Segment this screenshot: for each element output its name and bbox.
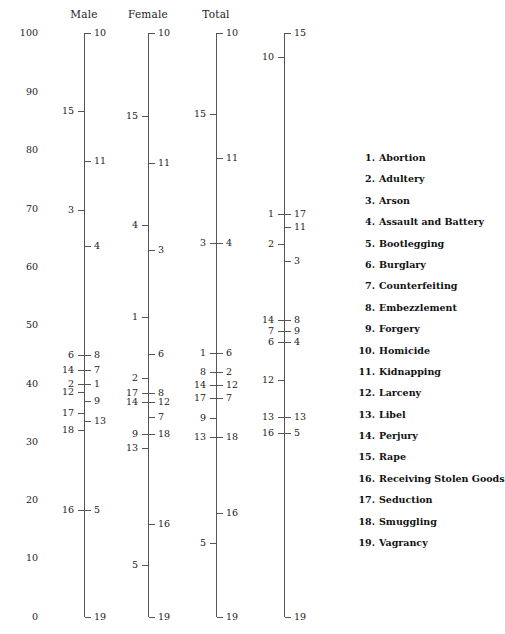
tick-label-total-right: 6 <box>226 348 232 358</box>
tick-male-right <box>85 33 91 34</box>
tick-label-fourth-right: 11 <box>294 222 306 232</box>
tick-label-fourth-right: 13 <box>294 412 306 422</box>
tick-label-female-right: 7 <box>158 412 164 422</box>
tick-female-right <box>149 417 155 418</box>
tick-label-male-left: 3 <box>68 205 74 215</box>
tick-male-left <box>78 384 84 385</box>
legend-item-label: Smuggling <box>379 516 437 527</box>
tick-label-male-right: 7 <box>94 365 100 375</box>
tick-label-total-left: 5 <box>200 538 206 548</box>
tick-fourth-right <box>285 433 291 434</box>
tick-fourth-right <box>285 342 291 343</box>
tick-label-female-right: 18 <box>158 429 170 439</box>
tick-female-right <box>149 434 155 435</box>
tick-fourth-right <box>285 33 291 34</box>
tick-fourth-right <box>285 214 291 215</box>
legend-item: 13.Libel <box>358 409 476 430</box>
legend-item-number: 16. <box>358 473 375 484</box>
tick-female-left <box>142 116 148 117</box>
legend-item: 2.Adultery <box>358 173 476 194</box>
legend-item: 10.Homicide <box>358 345 476 366</box>
column-title-total: Total <box>202 8 229 20</box>
legend-item-label: Embezzlement <box>379 302 457 313</box>
tick-total-left <box>210 543 216 544</box>
tick-label-fourth-right: 17 <box>294 209 306 219</box>
tick-label-female-left: 5 <box>132 560 138 570</box>
tick-female-left <box>142 402 148 403</box>
legend-item-number: 18. <box>358 516 375 527</box>
tick-total-right <box>217 33 223 34</box>
tick-label-total-right: 12 <box>226 380 238 390</box>
tick-label-female-left: 1 <box>132 312 138 322</box>
tick-female-left <box>142 448 148 449</box>
tick-male-left <box>78 370 84 371</box>
legend-item-label: Bootlegging <box>379 238 444 249</box>
tick-total-left <box>210 398 216 399</box>
master-scale-label: 40 <box>26 379 38 389</box>
tick-label-total-left: 13 <box>194 432 206 442</box>
master-scale-label: 90 <box>26 87 38 97</box>
tick-label-fourth-left: 7 <box>268 326 274 336</box>
legend-item-label: Larceny <box>379 387 421 398</box>
tick-label-fourth-left: 16 <box>262 428 274 438</box>
tick-male-left <box>78 430 84 431</box>
tick-label-fourth-right: 5 <box>294 428 300 438</box>
tick-male-right <box>85 510 91 511</box>
legend-item: 11.Kidnapping <box>358 366 476 387</box>
master-scale-label: 30 <box>26 437 38 447</box>
tick-total-left <box>210 437 216 438</box>
tick-label-fourth-left: 14 <box>262 315 274 325</box>
tick-male-right <box>85 161 91 162</box>
legend-item-number: 3. <box>358 195 375 206</box>
tick-total-left <box>210 372 216 373</box>
legend-item: 14.Perjury <box>358 430 476 451</box>
tick-label-fourth-left: 1 <box>268 209 274 219</box>
tick-male-right <box>85 246 91 247</box>
tick-total-right <box>217 372 223 373</box>
tick-label-total-left: 3 <box>200 238 206 248</box>
tick-label-female-left: 9 <box>132 429 138 439</box>
tick-label-female-left: 2 <box>132 373 138 383</box>
column-title-female: Female <box>128 8 168 20</box>
tick-label-female-left: 15 <box>126 111 138 121</box>
master-scale-label: 20 <box>26 495 38 505</box>
tick-label-fourth-right: 3 <box>294 256 300 266</box>
legend-item: 8.Embezzlement <box>358 302 476 323</box>
tick-label-total-left: 9 <box>200 413 206 423</box>
tick-label-female-left: 14 <box>126 397 138 407</box>
tick-label-fourth-left: 12 <box>262 375 274 385</box>
tick-fourth-left <box>278 433 284 434</box>
tick-male-right <box>85 401 91 402</box>
tick-fourth-right <box>285 331 291 332</box>
tick-label-male-right: 10 <box>94 28 106 38</box>
tick-label-total-right: 11 <box>226 153 238 163</box>
master-scale-label: 50 <box>26 320 38 330</box>
legend-item-label: Adultery <box>379 173 425 184</box>
tick-total-left <box>210 385 216 386</box>
tick-fourth-left <box>278 331 284 332</box>
tick-label-total-left: 14 <box>194 380 206 390</box>
legend-item-number: 14. <box>358 430 375 441</box>
tick-fourth-right <box>285 320 291 321</box>
tick-label-total-right: 7 <box>226 393 232 403</box>
tick-male-left <box>78 111 84 112</box>
legend-item: 15.Rape <box>358 451 476 472</box>
tick-label-fourth-left: 2 <box>268 239 274 249</box>
tick-label-fourth-right: 19 <box>294 612 306 622</box>
tick-female-right <box>149 33 155 34</box>
tick-total-right <box>217 398 223 399</box>
tick-label-male-left: 12 <box>62 387 74 397</box>
tick-total-right <box>217 617 223 618</box>
tick-fourth-left <box>278 214 284 215</box>
tick-total-right <box>217 353 223 354</box>
tick-label-male-right: 19 <box>94 612 106 622</box>
tick-female-left <box>142 225 148 226</box>
master-scale-label: 60 <box>26 262 38 272</box>
legend-item: 18.Smuggling <box>358 516 476 537</box>
legend-item: 19.Vagrancy <box>358 537 476 558</box>
tick-label-male-right: 13 <box>94 416 106 426</box>
legend-item: 7.Counterfeiting <box>358 280 476 301</box>
legend-item-label: Counterfeiting <box>379 280 457 291</box>
tick-label-female-right: 12 <box>158 397 170 407</box>
